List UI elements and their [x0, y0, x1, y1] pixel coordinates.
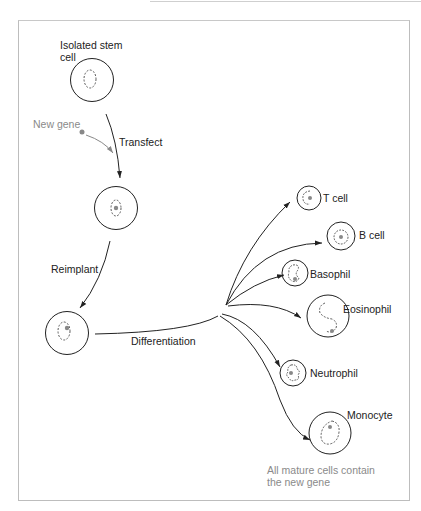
gene-therapy-diagram	[0, 0, 421, 511]
branch-neutrophil	[222, 314, 280, 367]
footnote-line-2: the new gene	[267, 476, 330, 488]
branch-eosinophil	[228, 305, 301, 319]
differentiation-branches	[220, 202, 322, 440]
transfected-cell	[95, 187, 138, 230]
monocyte	[309, 412, 351, 454]
t-cell-label: T cell	[323, 192, 348, 204]
differentiation-trunk	[95, 316, 218, 334]
neutrophil	[280, 360, 306, 386]
footnote-line-1: All mature cells contain	[267, 464, 375, 476]
eosinophil-label: Eosinophil	[343, 303, 391, 315]
transfect-arrow	[106, 114, 120, 178]
b-cell	[327, 222, 355, 250]
new-gene-dot	[80, 130, 85, 135]
monocyte-label: Monocyte	[347, 409, 393, 421]
isolated-stem-cell-label: Isolated stem	[60, 39, 122, 51]
t-cell	[297, 186, 321, 210]
new-gene-label: New gene	[33, 118, 80, 130]
isolated-stem-cell	[71, 59, 114, 102]
basophil-label: Basophil	[310, 268, 350, 280]
b-cell-label: B cell	[359, 229, 385, 241]
differentiation-label: Differentiation	[131, 335, 196, 347]
transfect-label: Transfect	[119, 136, 162, 148]
new-gene-arrow	[86, 135, 113, 153]
basophil	[282, 260, 308, 286]
branch-monocyte	[220, 316, 310, 440]
eosinophil	[307, 295, 349, 337]
reimplant-label: Reimplant	[51, 263, 98, 275]
isolated-stem-cell-label-2: cell	[60, 51, 76, 63]
neutrophil-label: Neutrophil	[310, 367, 358, 379]
reimplanted-cell	[46, 312, 89, 355]
